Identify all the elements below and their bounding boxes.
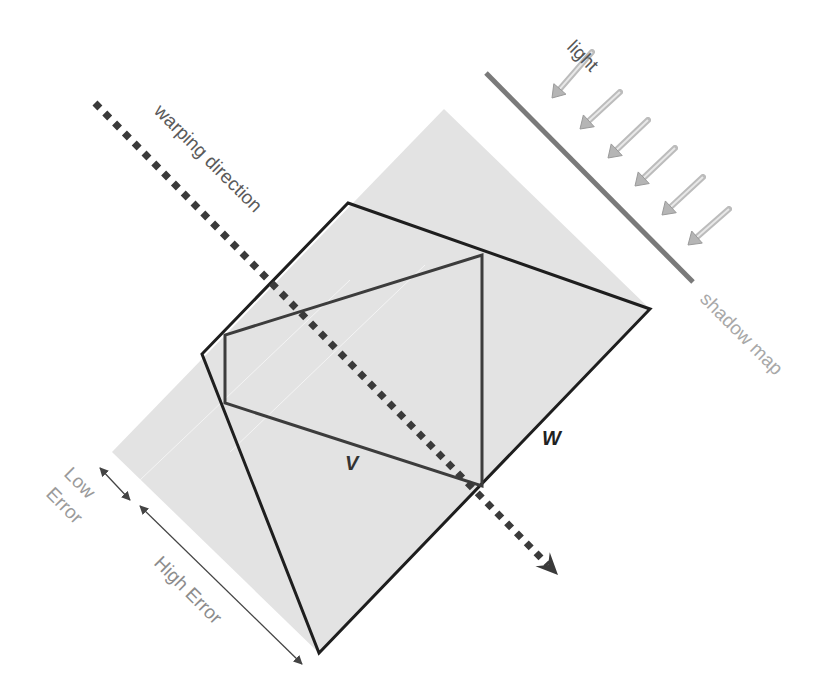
light-arrows	[552, 52, 729, 245]
light-ray-arrow-icon	[662, 177, 703, 215]
shadow-map-label: shadow map	[696, 288, 787, 379]
w-label: W	[542, 427, 563, 449]
high-error-label: High Error	[150, 552, 227, 629]
light-ray-arrow-icon	[608, 120, 648, 158]
light-ray-arrow-icon	[635, 148, 675, 186]
v-label: V	[345, 452, 360, 474]
shadow-warping-diagram: light warping direction shadow map V W L…	[0, 0, 821, 697]
shadow-map-coverage-band	[112, 109, 650, 653]
light-ray-arrow-icon	[688, 209, 729, 245]
light-ray-arrow-icon	[580, 92, 620, 129]
low-error-arrow	[100, 468, 130, 500]
light-label: light	[563, 36, 603, 76]
warping-direction-label: warping direction	[149, 99, 266, 216]
